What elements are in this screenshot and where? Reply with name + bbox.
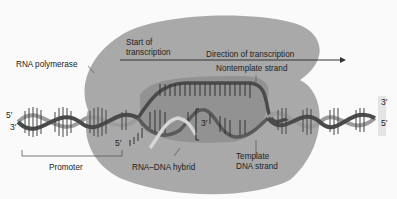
label-template-line2: DNA strand [236, 162, 278, 171]
end-rna-5prime: 5′ [115, 138, 121, 148]
end-right-3prime: 3′ [381, 97, 387, 107]
end-left-3prime: 3′ [10, 122, 16, 132]
label-direction: Direction of transcription [206, 50, 294, 59]
end-left-5prime: 5′ [6, 110, 12, 120]
end-right-5prime: 5′ [381, 118, 387, 128]
label-start-line1: Start of [126, 38, 152, 47]
label-nontemplate: Nontemplate strand [216, 64, 287, 73]
end-rna-3prime: 3′ [201, 118, 207, 128]
direction-arrow-head-icon [340, 57, 346, 63]
label-template-line1: Template [236, 152, 269, 161]
label-rna-polymerase: RNA polymerase [16, 60, 77, 69]
label-start-line2: transcription [126, 48, 171, 57]
label-promoter: Promoter [49, 163, 83, 172]
label-rna-dna-hybrid: RNA–DNA hybrid [132, 163, 195, 172]
transcription-diagram: RNA polymerase Start of transcription Di… [0, 0, 397, 199]
